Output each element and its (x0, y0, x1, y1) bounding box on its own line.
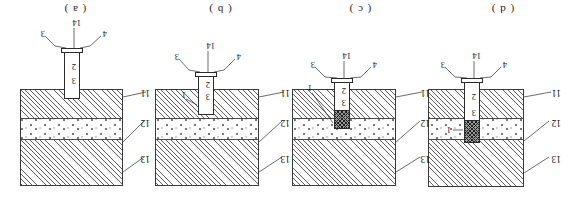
panel-d-label-3b: 3 (441, 61, 445, 70)
strata-boundary-lower (156, 118, 258, 119)
panel-a-label-3b: 3 (41, 30, 45, 39)
panel-c-label-12: 12 (421, 118, 431, 128)
strata-layer-top-13 (156, 140, 258, 185)
strata-layer-middle-12 (21, 119, 122, 140)
panel-a: ( a ) 13 12 11 3 2 4 14 3 (0, 0, 150, 209)
panel-a-label-12: 12 (141, 118, 151, 128)
panel-a-label-11: 11 (141, 88, 150, 98)
panel-b-label-12: 12 (281, 118, 291, 128)
panel-a-label-14: 14 (73, 19, 82, 28)
panel-b-label-3b: 3 (175, 53, 179, 62)
strata-boundary-upper (21, 139, 122, 140)
panel-d-label-4: 4 (503, 61, 507, 70)
panel-c: ( c ) 13 12 11 1 3 2 4 14 3 (290, 0, 430, 209)
panel-c-tube-fill (335, 110, 349, 128)
panel-b-label-14: 14 (207, 42, 216, 51)
panel-c-label-1: 1 (308, 84, 312, 93)
panel-b-label-1: 1 (182, 91, 186, 100)
strata-layer-top-13 (429, 140, 523, 186)
panel-d-tube-fill (465, 120, 479, 142)
panel-d-label-3-upper: 3 (472, 109, 476, 118)
panel-d-label-13: 13 (552, 154, 562, 164)
panel-a-label-2-lower: 2 (72, 63, 76, 72)
panel-d-tube-cap (461, 78, 483, 83)
panel-c-label-14: 14 (343, 52, 352, 61)
panel-a-label-4: 4 (103, 30, 107, 39)
panel-c-label-11: 11 (421, 88, 430, 98)
panel-c-label: ( c ) (290, 4, 430, 16)
panel-d-label-1: 1 (447, 126, 451, 135)
panel-c-label-3-upper: 3 (342, 99, 346, 108)
strata-layer-top-13 (293, 140, 395, 185)
panel-d-label-2-lower: 2 (472, 93, 476, 102)
panel-c-label-4: 4 (373, 61, 377, 70)
panel-c-label-3b: 3 (311, 61, 315, 70)
panel-b-tube-cap (195, 72, 217, 77)
panel-a-tube-cap (61, 48, 83, 53)
strata-layer-top-13 (21, 140, 122, 185)
panel-a-label-13: 13 (141, 154, 151, 164)
panel-a-label-3-upper: 3 (72, 77, 76, 86)
strata-boundary-upper (293, 139, 395, 140)
panel-d: ( d ) 13 12 11 1 3 2 4 14 (430, 0, 575, 209)
panel-d-label-14: 14 (473, 52, 482, 61)
panel-c-tube-cap (331, 78, 353, 83)
panel-b: ( b ) 13 12 11 1 3 2 4 14 3 (150, 0, 290, 209)
strata-boundary-lower (21, 118, 122, 119)
panel-b-label-13: 13 (281, 154, 291, 164)
panel-b-label-4: 4 (237, 53, 241, 62)
panel-c-label-13: 13 (421, 154, 431, 164)
panel-c-label-2-lower: 2 (342, 87, 346, 96)
panel-b-label-2-lower: 2 (206, 81, 210, 90)
panel-b-label-3-upper: 3 (206, 93, 210, 102)
panel-b-label: ( b ) (150, 4, 290, 16)
figure-sheet: ( d ) 13 12 11 1 3 2 4 14 (0, 0, 575, 209)
panel-d-label: ( d ) (430, 4, 575, 16)
panel-a-label: ( a ) (0, 4, 150, 16)
panel-b-label-11: 11 (281, 88, 290, 98)
strata-layer-middle-12 (156, 119, 258, 140)
panel-a-tube (64, 51, 80, 99)
panel-a-strata (20, 89, 123, 186)
panel-d-label-11: 11 (552, 88, 561, 98)
panel-d-label-12: 12 (552, 118, 562, 128)
strata-boundary-upper (156, 139, 258, 140)
